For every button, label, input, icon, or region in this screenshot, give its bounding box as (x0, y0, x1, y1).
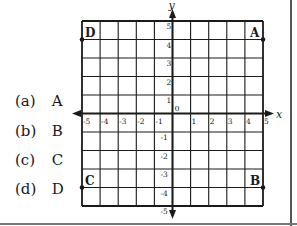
y-axis-label: y (168, 0, 176, 12)
y-tick-label: 5 (167, 22, 172, 31)
x-axis-left-arrow-icon (72, 110, 81, 117)
point-d-marker (80, 37, 85, 42)
y-tick-label: 4 (167, 41, 172, 50)
y-tick-label: -3 (161, 170, 169, 179)
point-d-label: D (85, 26, 95, 40)
x-tick-label: 1 (192, 117, 197, 126)
origin-label: 0 (175, 104, 180, 113)
point-b-label: B (250, 174, 260, 188)
y-tick-label: -2 (161, 152, 169, 161)
coordinate-grid: xy0-5-4-3-2-11234554321-1-2-3-4-5ABCD (0, 0, 297, 226)
x-tick-label: -4 (101, 117, 109, 126)
x-tick-label: 5 (264, 117, 269, 126)
bottom-divider (0, 223, 297, 225)
x-tick-label: 2 (210, 117, 215, 126)
x-tick-label: -3 (119, 117, 127, 126)
y-axis-down-arrow-icon (169, 210, 176, 219)
y-tick-label: -5 (161, 207, 169, 216)
x-tick-label: 3 (228, 117, 233, 126)
x-tick-label: -1 (155, 117, 162, 126)
x-tick-label: -2 (137, 117, 145, 126)
point-c-label: C (85, 174, 95, 188)
y-tick-label: -4 (161, 189, 169, 198)
x-tick-label: 4 (246, 117, 251, 126)
point-a-label: A (249, 26, 260, 40)
x-tick-label: -5 (83, 117, 91, 126)
y-tick-label: 3 (167, 59, 172, 68)
point-a-marker (261, 37, 266, 42)
y-tick-label: 2 (167, 78, 172, 87)
right-border-line (290, 0, 292, 226)
y-tick-label: 1 (167, 96, 172, 105)
point-c-marker (80, 185, 85, 190)
y-tick-label: -1 (161, 133, 168, 142)
x-axis-label: x (276, 108, 283, 121)
point-b-marker (261, 185, 266, 190)
